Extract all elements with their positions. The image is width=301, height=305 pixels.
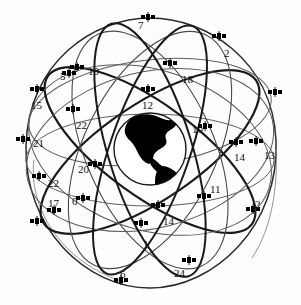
satellite-label-14-right: 14 <box>234 152 245 163</box>
satellite-icon-0 <box>76 193 90 203</box>
satellite-label-14-bottom: 14 <box>163 216 174 227</box>
satellite-icon-22-lower <box>32 171 46 181</box>
satellite-icon-14-right <box>229 137 243 147</box>
satellite-label-15: 15 <box>31 100 42 111</box>
satellite-icon-15 <box>30 84 44 94</box>
gps-constellation-figure: 7 2 10 5 18 15 12 22 10 21 14 13 20 22 1… <box>0 0 301 305</box>
satellite-icon-20 <box>88 159 102 169</box>
satellite-icon-far-right <box>268 87 282 97</box>
satellite-icon-18 <box>163 58 177 68</box>
satellite-label-21: 21 <box>33 138 44 149</box>
satellite-icon-14-bottom <box>151 200 165 210</box>
satellite-label-17: 17 <box>48 198 59 209</box>
satellite-icon-1 <box>134 218 148 228</box>
satellite-label-13: 13 <box>264 150 275 161</box>
satellite-label-6: 6 <box>120 269 126 280</box>
satellite-icon-24 <box>182 255 196 265</box>
satellite-icon-22-upper <box>66 104 80 114</box>
satellite-icon-11 <box>197 191 211 201</box>
satellite-label-5: 5 <box>60 71 66 82</box>
satellite-label-20: 20 <box>78 164 89 175</box>
constellation-diagram <box>0 0 301 305</box>
satellite-icon-13 <box>249 136 263 146</box>
satellite-icon-lower-left <box>30 216 44 226</box>
satellite-label-24: 24 <box>174 268 185 279</box>
satellite-label-22-upper: 22 <box>76 120 87 131</box>
satellite-label-22-lower: 22 <box>48 178 59 189</box>
satellite-icon-21 <box>16 134 30 144</box>
satellite-icon-2-top <box>212 31 226 41</box>
earth-globe <box>114 113 186 198</box>
satellite-label-10-upper-left: 10 <box>88 66 99 77</box>
satellite-label-2-top: 2 <box>224 48 230 59</box>
satellite-icon-12 <box>141 84 155 94</box>
satellite-label-0: 0 <box>72 196 78 207</box>
satellite-label-1: 1 <box>143 239 149 250</box>
satellite-label-2-right: 2 <box>255 199 261 210</box>
satellite-label-11: 11 <box>210 184 221 195</box>
satellite-label-10-right: 10 <box>192 124 203 135</box>
satellite-label-7: 7 <box>138 20 144 31</box>
satellite-label-12: 12 <box>142 100 153 111</box>
satellite-label-18: 18 <box>182 74 193 85</box>
